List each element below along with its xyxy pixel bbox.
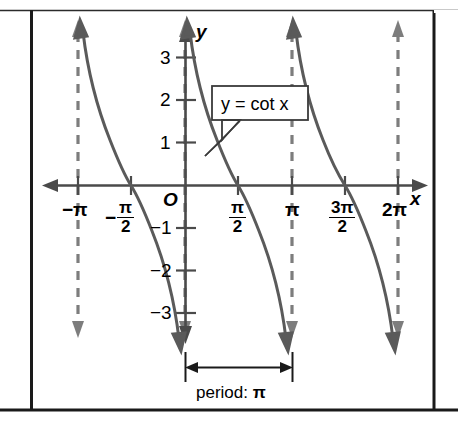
fraction-numerator: π [229,199,246,217]
fraction-numerator: 3π [329,199,355,217]
x-tick-label-two-pi: 2π [382,200,407,219]
minus-sign: − [105,208,116,227]
x-tick-label-pi: π [285,200,300,219]
period-value: π [253,383,266,402]
period-word: period: [196,383,248,402]
fraction-numerator: π [117,199,134,217]
fraction-denominator: 2 [229,217,246,236]
fraction-pi-over-2: π2 [229,199,246,236]
y-tick-label-neg-1: −1 [150,218,172,237]
y-axis [176,24,196,344]
y-tick-label-3: 3 [160,48,171,67]
y-tick-label-neg-3: −3 [150,303,172,322]
x-axis-label: x [410,189,421,208]
x-tick-label-neg-pi: −π [62,200,88,219]
function-callout-label: y = cot x [221,94,289,115]
fraction-denominator: 2 [329,217,355,236]
x-tick-label-pi-over-2: π2 [229,199,246,236]
x-tick-label-three-pi-over-2: 3π2 [329,199,355,236]
period-annotation: period: π [196,383,266,403]
x-tick-label-neg-pi-over-2: −π2 [105,199,134,236]
fraction-three-pi-over-2: 3π2 [329,199,355,236]
fraction-denominator: 2 [117,217,134,236]
y-tick-label-neg-2: −2 [150,261,172,280]
fraction-pi-over-2: π2 [117,199,134,236]
origin-label: O [163,190,178,209]
period-bracket [185,352,293,382]
y-tick-label-1: 1 [160,133,171,152]
y-axis-label: y [196,22,207,41]
y-tick-label-2: 2 [160,90,171,109]
figure-page: y x O 3 2 1 −1 −2 −3 −π −π2 π2 π 3π2 2π … [0,0,458,428]
